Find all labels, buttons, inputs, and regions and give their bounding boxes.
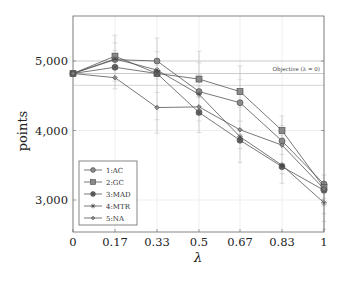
y-tick-label: 4,000: [35, 124, 68, 138]
x-axis-label: λ: [193, 250, 202, 265]
y-tick-label: 5,000: [35, 54, 68, 68]
legend: 1:AC2:GC3:MAD4:MTR5:NA: [79, 161, 137, 225]
legend-label: 4:MTR: [106, 203, 131, 211]
x-tick-label: 0: [69, 235, 76, 249]
legend-label: 5:NA: [106, 215, 125, 223]
legend-label: 1:AC: [106, 167, 123, 175]
y-axis-label: points: [15, 111, 30, 152]
legend-label: 3:MAD: [106, 191, 131, 199]
y-tick-label: 3,000: [35, 193, 68, 207]
x-tick-label: 0.33: [144, 235, 170, 249]
objective-label: Objective (λ = 0): [272, 66, 320, 73]
x-tick-label: 0.5: [190, 235, 208, 249]
x-tick-label: 1: [320, 235, 327, 249]
x-tick-label: 0.67: [227, 235, 253, 249]
x-tick-label: 0.83: [269, 235, 295, 249]
line-chart: 3,0004,0005,000 00.170.330.50.670.831 Ob…: [0, 0, 343, 281]
x-tick-label: 0.17: [102, 235, 128, 249]
legend-label: 2:GC: [106, 179, 124, 187]
